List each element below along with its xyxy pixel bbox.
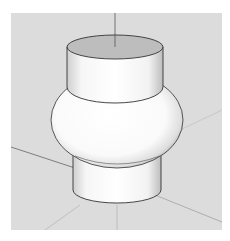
green-axis-line [155, 195, 222, 222]
top-cylinder[interactable] [67, 35, 163, 103]
axis-line-bottom-left [45, 205, 80, 230]
3d-viewport[interactable] [11, 13, 222, 230]
model-canvas[interactable] [11, 13, 222, 230]
axis-line-right [180, 110, 222, 130]
